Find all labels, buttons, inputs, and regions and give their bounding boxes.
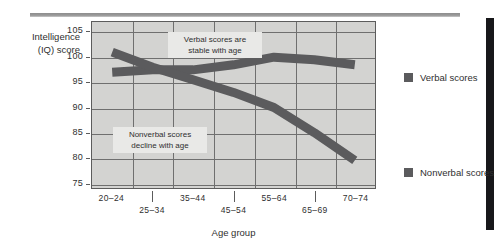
x-axis-tick-mark [234,191,235,202]
verbal-annotation-line2: stable with age [172,45,258,56]
x-axis-title: Age group [91,227,376,238]
nonverbal-annotation-line2: decline with age [117,140,203,151]
x-axis-tick-mark [315,191,316,202]
y-axis-tick-label: 100 [57,51,83,61]
right-edge-bar [486,18,494,230]
y-axis-tick-mark [86,82,90,83]
y-axis-tick-label: 80 [57,152,83,162]
y-axis-tick-label: 95 [57,76,83,86]
y-axis-tick-label: 90 [57,102,83,112]
x-axis-tick-label: 25–34 [139,205,165,215]
nonverbal-annotation-line1: Nonverbal scores [117,129,203,140]
y-axis-tick-mark [86,108,90,109]
legend-item-verbal[interactable]: Verbal scores [404,72,478,83]
y-axis-tick-mark [86,158,90,159]
y-axis-tick-label: 85 [57,127,83,137]
x-axis-tick-label: 70–74 [343,193,369,203]
x-axis-tick-label: 55–64 [261,193,287,203]
legend-swatch-nonverbal [404,168,413,177]
x-axis-tick-label: 20–24 [99,193,125,203]
y-axis-tick-label: 105 [57,25,83,35]
legend-item-nonverbal[interactable]: Nonverbal scores [404,167,494,178]
y-axis-tick-mark [86,31,90,32]
legend-label-nonverbal: Nonverbal scores [420,167,494,178]
legend-swatch-verbal [404,73,413,82]
top-divider-rule [30,13,460,17]
verbal-annotation: Verbal scores are stable with age [168,32,262,58]
y-axis-tick-mark [86,184,90,185]
x-axis-tick-mark [152,191,153,202]
verbal-annotation-line1: Verbal scores are [172,34,258,45]
y-axis-tick-mark [86,57,90,58]
x-axis-tick-label: 35–44 [180,193,206,203]
chart-figure: Intelligence (IQ) score 1051009590858075… [0,0,502,247]
nonverbal-annotation: Nonverbal scores decline with age [113,127,207,153]
x-axis-tick-label: 65–69 [302,205,328,215]
y-axis-tick-mark [86,133,90,134]
legend-label-verbal: Verbal scores [420,72,478,83]
y-axis-tick-label: 75 [57,178,83,188]
x-axis-tick-label: 45–54 [221,205,247,215]
